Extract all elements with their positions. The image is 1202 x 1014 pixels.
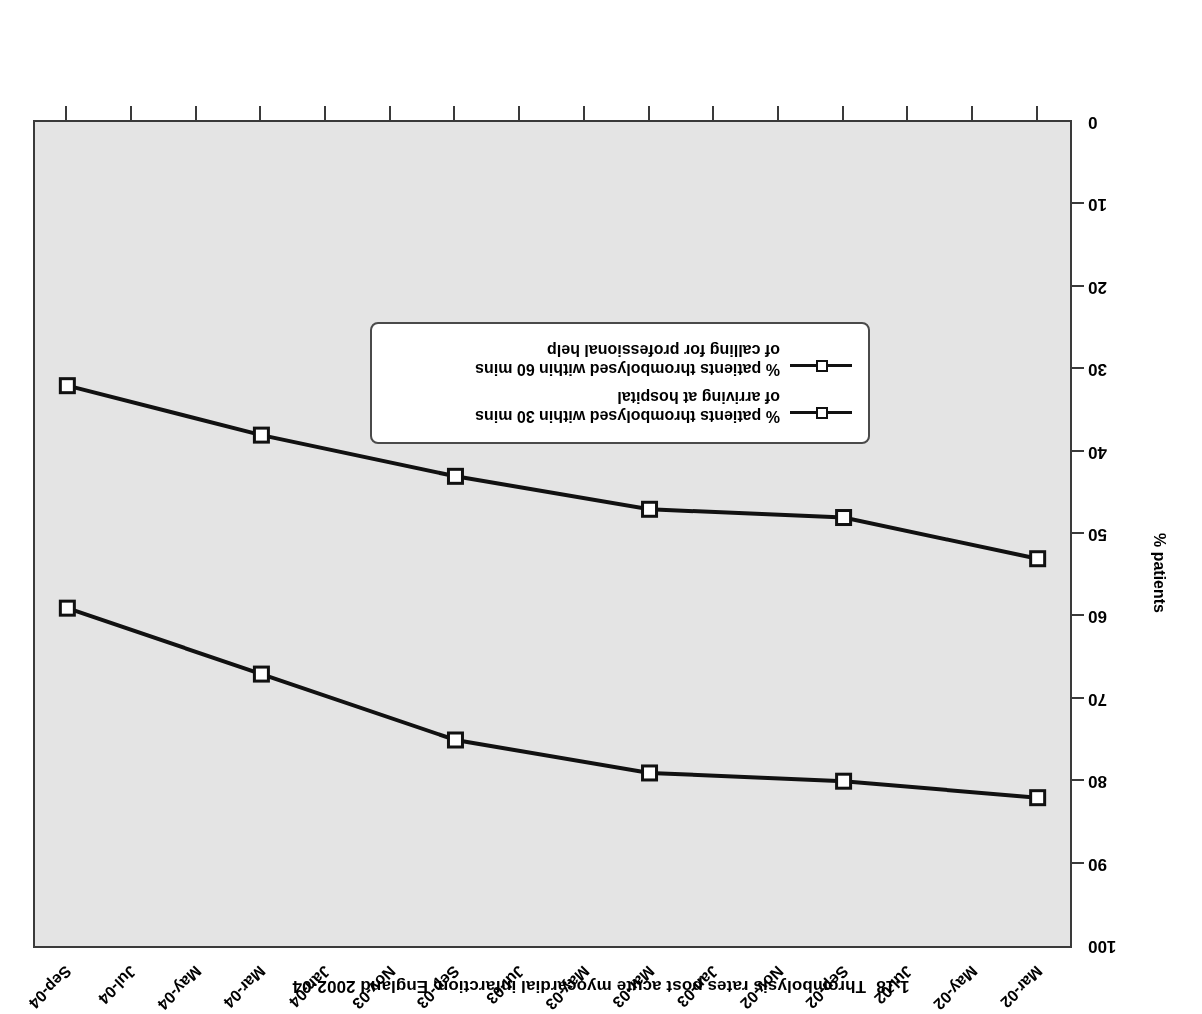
legend-item-line1: % patients thrombolysed within 30 mins xyxy=(475,408,780,425)
x-axis-tick xyxy=(130,106,132,120)
series-marker xyxy=(1031,791,1045,805)
y-axis-tick-label: 90 xyxy=(1088,854,1134,874)
series-marker xyxy=(254,667,268,681)
x-axis-tick xyxy=(324,106,326,120)
series-marker xyxy=(1031,552,1045,566)
y-axis-tick-label: 50 xyxy=(1088,524,1134,544)
y-axis-tick-label: 20 xyxy=(1088,277,1134,297)
legend-item-line2: of calling for professional help xyxy=(547,342,780,359)
x-axis-tick xyxy=(518,106,520,120)
y-axis-tick xyxy=(1072,614,1084,616)
y-axis-tick-label: 0 xyxy=(1088,112,1134,132)
series-layer xyxy=(35,122,1070,946)
series-marker xyxy=(643,502,657,516)
x-axis-tick xyxy=(648,106,650,120)
series-marker xyxy=(448,469,462,483)
y-axis-tick xyxy=(1072,862,1084,864)
series-line xyxy=(67,608,1037,798)
legend-item: % patients thrombolysed within 30 mins o… xyxy=(388,387,852,425)
y-axis-tick-label: 60 xyxy=(1088,606,1134,626)
series-marker xyxy=(837,774,851,788)
y-axis-tick-label: 30 xyxy=(1088,359,1134,379)
legend-item: % patients thrombolysed within 60 mins o… xyxy=(388,341,852,379)
y-axis-tick xyxy=(1072,450,1084,452)
y-axis-tick xyxy=(1072,779,1084,781)
x-axis-tick xyxy=(583,106,585,120)
series-marker xyxy=(254,428,268,442)
legend-marker-icon xyxy=(790,403,852,423)
legend-marker-icon xyxy=(790,356,852,376)
y-axis-title: % patients xyxy=(1150,533,1168,613)
chart-legend: % patients thrombolysed within 30 mins o… xyxy=(370,323,870,445)
x-axis-tick xyxy=(906,106,908,120)
y-axis-tick-label: 40 xyxy=(1088,442,1134,462)
y-axis-tick-label: 80 xyxy=(1088,771,1134,791)
legend-item-line1: % patients thrombolysed within 60 mins xyxy=(475,361,780,378)
legend-item-line2: of arriving at hospital xyxy=(617,389,780,406)
legend-item-label: % patients thrombolysed within 60 mins o… xyxy=(475,341,780,379)
x-axis-tick xyxy=(971,106,973,120)
plot-inner xyxy=(35,122,1070,946)
x-axis-tick xyxy=(712,106,714,120)
x-axis-tick xyxy=(65,106,67,120)
plot-area xyxy=(33,120,1072,948)
y-axis-tick xyxy=(1072,202,1084,204)
x-axis-tick xyxy=(842,106,844,120)
y-axis-tick-label: 70 xyxy=(1088,689,1134,709)
series-marker xyxy=(448,733,462,747)
series-marker xyxy=(60,601,74,615)
y-axis-tick xyxy=(1072,285,1084,287)
y-axis-tick xyxy=(1072,367,1084,369)
x-axis-tick xyxy=(259,106,261,120)
y-axis-tick xyxy=(1072,532,1084,534)
x-axis-tick xyxy=(389,106,391,120)
chart-figure: 1.18Thrombolysis rates post acute myocar… xyxy=(0,0,1202,1014)
series-marker xyxy=(643,766,657,780)
y-axis-tick xyxy=(1072,697,1084,699)
series-marker xyxy=(60,379,74,393)
x-axis-tick xyxy=(195,106,197,120)
y-axis-tick-label: 100 xyxy=(1088,936,1134,956)
y-axis-tick-label: 10 xyxy=(1088,194,1134,214)
x-axis-tick xyxy=(453,106,455,120)
legend-item-label: % patients thrombolysed within 30 mins o… xyxy=(475,387,780,425)
figure-rotation-wrapper: 1.18Thrombolysis rates post acute myocar… xyxy=(0,0,1202,1014)
x-axis-tick xyxy=(777,106,779,120)
x-axis-tick xyxy=(1036,106,1038,120)
series-marker xyxy=(837,511,851,525)
